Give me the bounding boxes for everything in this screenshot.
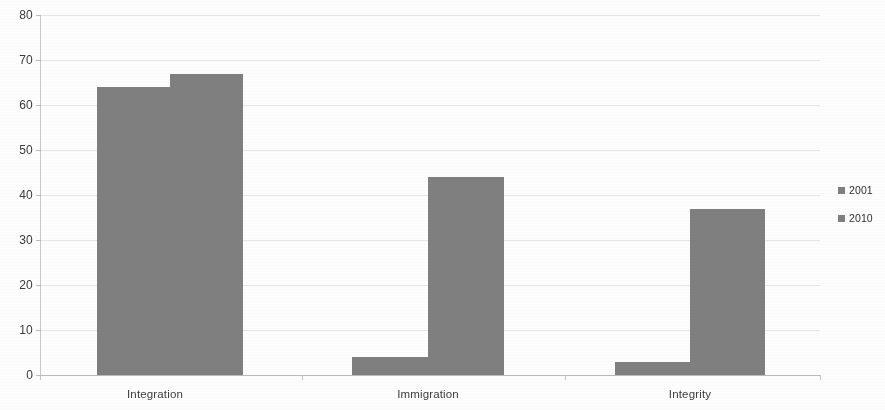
y-axis-tick-mark (36, 375, 41, 376)
y-axis-tick-label: 70 (3, 54, 33, 66)
y-axis-tick-label: 40 (3, 189, 33, 201)
chart-legend: 20012010 (838, 183, 884, 239)
gridline (40, 15, 820, 16)
x-axis-tick-mark (820, 375, 821, 380)
x-axis-category-label: Immigration (397, 388, 459, 400)
y-axis-tick-mark (36, 60, 41, 61)
bar (690, 209, 765, 376)
y-axis-tick-label: 30 (3, 234, 33, 246)
x-axis-tick-mark (565, 375, 566, 380)
bar (97, 87, 170, 375)
plot-area (40, 15, 820, 375)
x-axis-category-label: Integration (127, 388, 183, 400)
y-axis-labels: 80706050403020100 (0, 0, 33, 410)
legend-item: 2010 (838, 211, 884, 225)
y-axis-tick-mark (36, 330, 41, 331)
y-axis-tick-mark (36, 240, 41, 241)
y-axis-tick-label: 60 (3, 99, 33, 111)
y-axis-tick-label: 80 (3, 9, 33, 21)
gridline (40, 60, 820, 61)
bar (428, 177, 504, 375)
y-axis-tick-mark (36, 105, 41, 106)
baseline-gridline (40, 375, 820, 376)
legend-label: 2010 (849, 213, 873, 224)
y-axis-tick-mark (36, 285, 41, 286)
legend-swatch-icon (838, 215, 845, 222)
y-axis-tick-mark (36, 195, 41, 196)
bar (170, 74, 243, 376)
bar (352, 357, 428, 375)
y-axis-tick-label: 20 (3, 279, 33, 291)
y-axis-tick-label: 10 (3, 324, 33, 336)
bar-chart: 80706050403020100 IntegrationImmigration… (0, 0, 885, 410)
legend-label: 2001 (849, 185, 873, 196)
y-axis-tick-label: 0 (3, 369, 33, 381)
x-axis-category-label: Integrity (669, 388, 711, 400)
y-axis-tick-mark (36, 150, 41, 151)
legend-swatch-icon (838, 187, 845, 194)
bar (615, 362, 690, 376)
y-axis-tick-mark (36, 15, 41, 16)
y-axis-tick-label: 50 (3, 144, 33, 156)
legend-item: 2001 (838, 183, 884, 197)
x-axis-tick-mark (302, 375, 303, 380)
